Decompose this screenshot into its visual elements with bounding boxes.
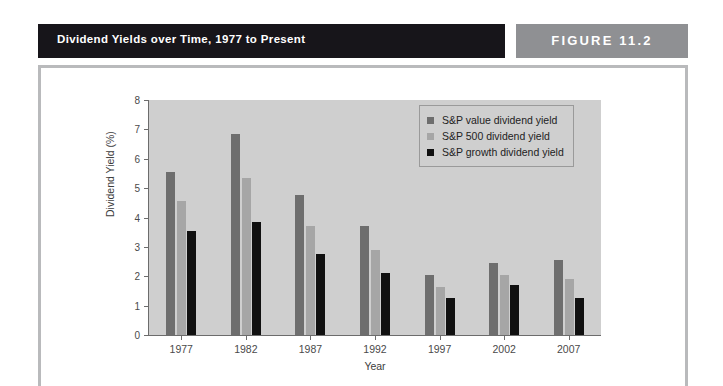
figure-header-band: Dividend Yields over Time, 1977 to Prese… xyxy=(38,24,688,58)
figure-number-tab: FIGURE 11.2 xyxy=(516,24,688,58)
figure-title: Dividend Yields over Time, 1977 to Prese… xyxy=(57,33,305,45)
figure-frame xyxy=(38,65,688,386)
figure-title-bar: Dividend Yields over Time, 1977 to Prese… xyxy=(38,24,505,58)
figure-number-label: FIGURE 11.2 xyxy=(516,33,688,48)
